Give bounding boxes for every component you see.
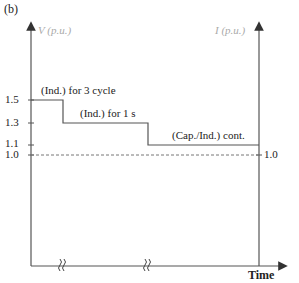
right-axis-label: I (p.u.) [215, 24, 245, 36]
tick-label-1-5: 1.5 [5, 93, 19, 105]
tick-label-1-0: 1.0 [5, 148, 19, 160]
axis-break-icon [144, 259, 151, 271]
segment-label-cont: (Cap./Ind.) cont. [172, 129, 245, 141]
segment-label-3-cycle: (Ind.) for 3 cycle [41, 84, 116, 96]
diagram-canvas [0, 0, 299, 283]
axis-break-icon [59, 259, 66, 271]
left-axis-label: V (p.u.) [38, 24, 71, 36]
tick-label-1-3: 1.3 [5, 116, 19, 128]
x-axis-label: Time [248, 268, 274, 283]
figure-label: (b) [4, 2, 18, 17]
right-tick-label: 1.0 [264, 148, 278, 160]
segment-label-1-s: (Ind.) for 1 s [80, 107, 136, 119]
